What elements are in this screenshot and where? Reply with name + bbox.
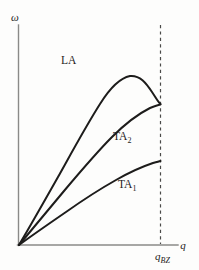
ta2-branch-curve: [19, 105, 161, 246]
ta2-curve-label-main: TA: [113, 130, 128, 142]
ta2-curve-label: TA2: [113, 130, 131, 145]
zone-boundary-label: qBZ: [155, 250, 170, 265]
ta1-curve-label-main: TA: [118, 178, 133, 190]
ta2-curve-label-sub: 2: [127, 136, 131, 145]
ta1-branch-curve: [19, 161, 161, 245]
x-axis-label: q: [180, 239, 186, 251]
ta1-curve-label-sub: 1: [132, 184, 136, 193]
la-curve-label: LA: [61, 54, 77, 66]
ta1-curve-label: TA1: [118, 178, 136, 193]
phonon-dispersion-figure: ω q qBZ LA TA2 TA1: [0, 0, 199, 270]
zone-boundary-label-sub: BZ: [161, 256, 171, 265]
dispersion-plot-canvas: ω q qBZ LA TA2 TA1: [0, 0, 199, 270]
y-axis-label: ω: [11, 11, 19, 23]
